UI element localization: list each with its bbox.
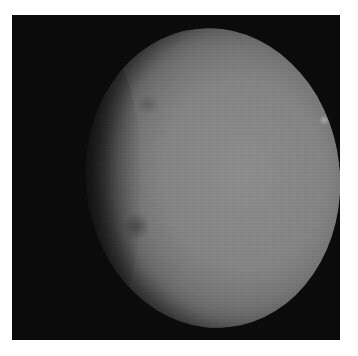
terminator-shadow <box>72 55 142 315</box>
photo-frame <box>12 15 340 340</box>
